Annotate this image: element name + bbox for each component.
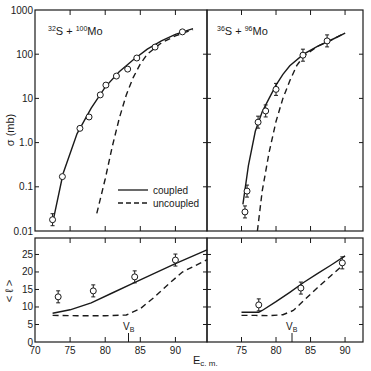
data-point-marker <box>55 294 61 300</box>
x-tick-label: 80 <box>100 345 112 356</box>
vb-marker-left: VB <box>123 321 135 342</box>
data-point-marker <box>90 288 96 294</box>
legend-uncoupled-label: uncoupled <box>153 198 199 209</box>
data-point-marker <box>324 38 330 44</box>
y-tick-label-bottom: 15 <box>22 284 34 295</box>
y-tick-label-bottom: 10 <box>22 301 34 312</box>
model-curves <box>53 29 346 316</box>
data-point-marker <box>255 119 261 125</box>
data-point-marker <box>300 52 306 58</box>
data-point-marker <box>50 217 56 223</box>
figure-canvas: 1000100101.00.10.01252015105070758085907… <box>0 0 371 371</box>
data-point-marker <box>97 92 103 98</box>
axis-ticks <box>35 10 363 342</box>
data-point-marker <box>59 174 65 180</box>
data-point-marker <box>134 55 140 61</box>
data-point-marker <box>125 66 131 72</box>
vb-marker-right: VB <box>286 321 298 342</box>
x-tick-label: 90 <box>339 345 351 356</box>
y-tick-label-top: 1.0 <box>19 137 33 148</box>
data-point-marker <box>273 86 279 92</box>
panel-title-36s-96mo: 36S + 96Mo <box>217 25 268 37</box>
data-point-marker <box>86 114 92 120</box>
y-tick-label-bottom: 25 <box>22 249 34 260</box>
y-tick-label-top: 100 <box>16 49 33 60</box>
vb-label-right: VB <box>286 321 298 333</box>
x-tick-label: 80 <box>270 345 282 356</box>
x-tick-label: 75 <box>65 345 77 356</box>
y-tick-label-top: 0.1 <box>19 181 33 192</box>
data-point-marker <box>77 125 83 131</box>
legend: coupled uncoupled <box>118 185 199 209</box>
data-point-marker <box>152 44 158 50</box>
x-tick-label: 85 <box>135 345 147 356</box>
y-axis-title-sigma: σ (mb) <box>4 114 16 146</box>
x-tick-label: 70 <box>29 345 41 356</box>
data-point-marker <box>339 260 345 266</box>
coupled-curve <box>53 250 207 313</box>
legend-coupled-label: coupled <box>153 185 188 196</box>
data-point-marker <box>179 29 185 35</box>
x-tick-label: 85 <box>305 345 317 356</box>
data-point-marker <box>263 108 269 114</box>
y-tick-label-bottom: 20 <box>22 266 34 277</box>
data-points <box>50 29 346 311</box>
data-point-marker <box>172 257 178 263</box>
x-tick-label: 90 <box>170 345 182 356</box>
y-tick-label-top: 1000 <box>11 5 34 16</box>
vb-label-left: VB <box>123 321 135 333</box>
uncoupled-curve <box>257 33 345 231</box>
y-tick-label-top: 10 <box>22 93 34 104</box>
data-point-marker <box>256 302 262 308</box>
data-point-marker <box>132 274 138 280</box>
bottom-right-panel-frame <box>207 238 363 342</box>
panel-frames <box>35 10 363 342</box>
data-point-marker <box>103 82 109 88</box>
y-tick-label-top: 0.01 <box>14 226 34 237</box>
bottom-left-panel-frame <box>35 238 207 342</box>
data-point-marker <box>298 285 304 291</box>
data-point-marker <box>244 188 250 194</box>
x-axis-title: Ec. m. <box>193 354 218 368</box>
y-axis-title-l: < ℓ > <box>3 280 15 303</box>
data-point-marker <box>113 73 119 79</box>
y-tick-label-bottom: 5 <box>27 319 33 330</box>
x-tick-label: 75 <box>236 345 248 356</box>
top-right-panel-frame <box>207 10 363 231</box>
data-point-marker <box>242 209 248 215</box>
panel-title-32s-100mo: 32S + 100Mo <box>48 25 103 37</box>
